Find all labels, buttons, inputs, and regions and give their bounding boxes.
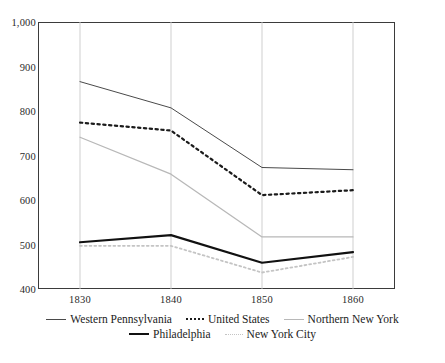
- series-group: [80, 82, 353, 273]
- y-tick-label-500: 500: [2, 239, 36, 250]
- x-tick-label-1830: 1830: [69, 294, 91, 305]
- y-tick-label-400: 400: [2, 284, 36, 295]
- legend-item-northern-new-york[interactable]: Northern New York: [284, 313, 399, 325]
- legend-item-label: Northern New York: [308, 313, 399, 325]
- chart-canvas: [0, 0, 445, 363]
- legend-line-swatch-icon: [225, 334, 243, 335]
- legend-item-new-york-city[interactable]: New York City: [225, 328, 316, 340]
- y-tick-label-800: 800: [2, 106, 36, 117]
- series-line-northern-new-york: [80, 137, 353, 237]
- legend-item-philadelphia[interactable]: Philadelphia: [129, 328, 211, 340]
- legend-line-swatch-icon: [129, 333, 149, 335]
- line-chart: 4005006007008009001,000 1830184018501860…: [0, 0, 445, 363]
- legend-line-swatch-icon: [186, 318, 204, 320]
- legend-line-swatch-icon: [284, 319, 304, 320]
- series-line-united-states: [80, 123, 353, 196]
- x-tick-label-1850: 1850: [251, 294, 273, 305]
- legend-item-label: Philadelphia: [153, 328, 211, 340]
- y-axis-tick-labels: 4005006007008009001,000: [0, 0, 36, 363]
- chart-legend: Western PennsylvaniaUnited StatesNorther…: [0, 313, 445, 340]
- x-tick-label-1840: 1840: [160, 294, 182, 305]
- y-tick-label-700: 700: [2, 150, 36, 161]
- legend-row-2: PhiladelphiaNew York City: [129, 328, 316, 340]
- legend-line-swatch-icon: [46, 319, 66, 320]
- y-tick-label-1000: 1,000: [2, 17, 36, 28]
- y-tick-label-600: 600: [2, 195, 36, 206]
- legend-item-label: United States: [208, 313, 270, 325]
- legend-item-united-states[interactable]: United States: [186, 313, 270, 325]
- legend-item-label: New York City: [247, 328, 316, 340]
- legend-item-label: Western Pennsylvania: [70, 313, 172, 325]
- legend-row-1: Western PennsylvaniaUnited StatesNorther…: [46, 313, 398, 325]
- legend-item-western-pennsylvania[interactable]: Western Pennsylvania: [46, 313, 172, 325]
- y-tick-label-900: 900: [2, 61, 36, 72]
- x-tick-label-1860: 1860: [342, 294, 364, 305]
